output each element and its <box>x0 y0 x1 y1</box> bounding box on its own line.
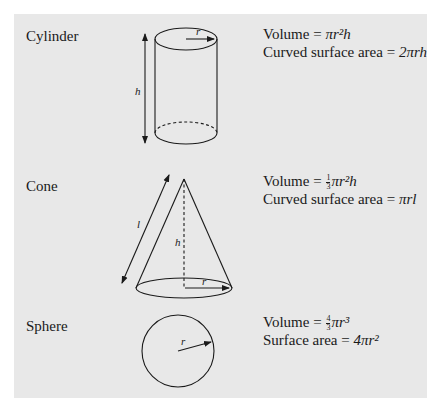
sphere-diagram <box>142 315 214 387</box>
cylinder-curved-surface-formula: Curved surface area = 2πrh <box>263 44 427 61</box>
cone-radius-label: r <box>202 275 207 287</box>
cylinder-radius-label: r <box>196 25 201 37</box>
sphere-radius-label: r <box>181 335 186 347</box>
fraction-one-third: 13 <box>326 174 330 191</box>
sphere-surface-formula: Surface area = 4πr² <box>263 332 379 349</box>
cylinder-height-label: h <box>135 85 141 97</box>
sphere-volume-formula: Volume = 43πr³ <box>263 314 349 332</box>
cone-height-label: h <box>175 236 181 248</box>
cylinder-diagram <box>145 28 217 144</box>
cone-curved-surface-formula: Curved surface area = πrl <box>263 191 416 208</box>
fraction-four-thirds: 43 <box>326 315 330 332</box>
cylinder-volume-formula: Volume = πr²h <box>263 26 351 43</box>
cone-slant-label: l <box>137 218 140 230</box>
cone-volume-formula: Volume = 13πr²h <box>263 173 357 191</box>
